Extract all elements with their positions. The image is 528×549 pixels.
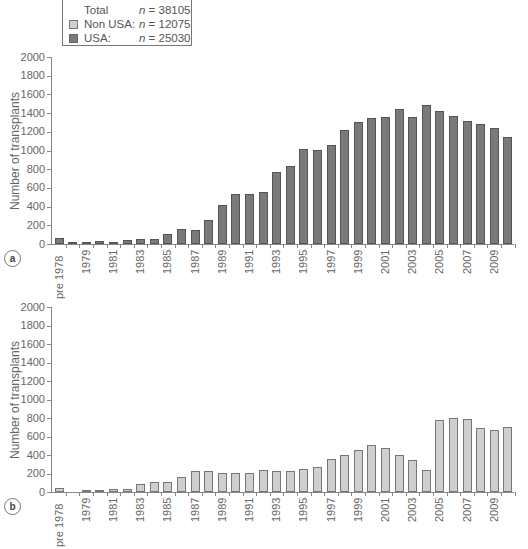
bar-1996 [313,467,322,492]
x-tick [161,492,162,496]
y-tick-label: 0 [39,239,45,250]
y-tick-label: 1600 [21,89,45,100]
x-tick-label: 1999 [353,250,364,274]
y-tick-label: 1200 [21,376,45,387]
x-tick-label: 1981 [108,498,119,522]
y-tick [47,455,51,456]
y-tick-label: 1200 [21,126,45,137]
legend-label: Non USA: [84,17,135,31]
bar-1984 [150,239,159,244]
bar-1980 [95,490,104,492]
x-tick-label: 2003 [407,250,418,274]
x-tick [283,244,284,248]
x-tick [365,492,366,496]
bar-1991 [245,473,254,492]
x-tick [501,492,502,496]
legend-count: n = 12075 [139,17,191,31]
bar-1985 [163,482,172,492]
x-tick-label: 2001 [380,498,391,522]
y-tick-label: 400 [27,201,45,212]
bar-2005 [435,111,444,244]
bar-1994 [286,471,295,492]
y-tick [47,381,51,382]
y-tick [47,94,51,95]
x-tick-label: 2009 [489,498,500,522]
x-tick [311,244,312,248]
x-tick [134,244,135,248]
x-tick [215,492,216,496]
y-tick [47,400,51,401]
x-tick-label: 1985 [162,498,173,522]
x-tick [379,244,380,248]
bar-2003 [408,117,417,244]
y-tick-label: 1000 [21,394,45,405]
x-tick-label: 2005 [434,498,445,522]
y-tick-label: 200 [27,220,45,231]
x-tick-label: 1993 [271,250,282,274]
bar-1997 [327,459,336,492]
bar-1981 [109,242,118,244]
bar-1998 [340,130,349,244]
y-tick-label: 1400 [21,357,45,368]
bar-1999 [354,122,363,244]
x-tick [147,244,148,248]
x-tick [324,492,325,496]
x-tick-label: 1983 [135,498,146,522]
legend-swatch-non-usa [69,20,78,29]
bar-1978 [68,242,77,244]
y-tick [47,307,51,308]
x-tick-label: 2003 [407,498,418,522]
x-tick-label: 1999 [353,498,364,522]
bar-2008 [476,124,485,244]
x-tick [175,244,176,248]
x-tick [501,244,502,248]
legend-label: Total [84,3,108,17]
x-tick [79,492,80,496]
bar-2009 [490,430,499,492]
bar-2004 [422,470,431,492]
x-tick [93,492,94,496]
bar-1997 [327,145,336,244]
x-tick-label: 1989 [217,498,228,522]
bar-2010 [503,427,512,492]
legend-count: n = 38105 [139,3,191,17]
bar-1980 [95,241,104,244]
x-tick [120,244,121,248]
x-tick-label: 1991 [244,498,255,522]
bar-2005 [435,420,444,492]
bar-2003 [408,460,417,492]
bar-1995 [299,469,308,492]
x-tick [338,492,339,496]
x-tick-label: pre 1978 [54,503,65,546]
bar-1998 [340,455,349,492]
y-tick-label: 1000 [21,145,45,156]
x-tick [188,244,189,248]
bar-1982 [123,489,132,492]
y-tick-label: 400 [27,450,45,461]
x-tick [270,244,271,248]
x-tick [515,244,516,248]
x-tick-label: 1979 [81,498,92,522]
x-tick [515,492,516,496]
y-axis-line [51,57,52,244]
panel-badge-a: a [4,250,21,267]
y-tick-label: 1800 [21,70,45,81]
y-tick [47,132,51,133]
y-tick [47,225,51,226]
bar-2010 [503,137,512,244]
bar-2002 [395,109,404,244]
x-tick [460,244,461,248]
y-tick-label: 2000 [21,52,45,63]
x-tick [215,244,216,248]
legend-swatch-usa [69,34,78,43]
y-tick-label: 1600 [21,339,45,350]
x-tick [270,492,271,496]
x-tick-label: 1995 [298,250,309,274]
x-tick-label: 1997 [326,250,337,274]
x-tick-label: 1989 [217,250,228,274]
x-tick-label: 1981 [108,250,119,274]
y-tick-label: 600 [27,182,45,193]
x-tick-label: 2001 [380,250,391,274]
x-tick-label: 1985 [162,250,173,274]
x-tick [134,492,135,496]
